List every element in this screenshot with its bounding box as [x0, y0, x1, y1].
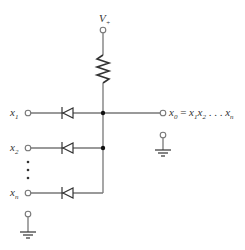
xn-terminal — [25, 190, 31, 196]
output-ground-icon — [155, 150, 171, 156]
x1-terminal — [25, 110, 31, 116]
diode-x1 — [62, 107, 73, 119]
x1-label: x1 — [9, 106, 18, 121]
ellipsis-dots — [27, 161, 30, 180]
x2-label: x2 — [9, 141, 19, 156]
output-expression: x0 = x1x2 . . . xn — [168, 106, 234, 121]
junction-node-1 — [101, 111, 105, 115]
input-ground-terminal — [25, 211, 31, 217]
diode-and-gate-diagram: V+ x1 x2 xn x0 = x1x2 . . . xn — [0, 0, 245, 250]
input-ground-icon — [20, 232, 36, 238]
x2-terminal — [25, 145, 31, 151]
diode-x2 — [62, 142, 73, 154]
xn-label: xn — [9, 186, 19, 201]
output-terminal — [160, 110, 166, 116]
resistor — [97, 55, 109, 83]
supply-terminal — [100, 27, 106, 33]
junction-node-2 — [101, 146, 105, 150]
diode-xn — [62, 187, 73, 199]
output-ground-terminal — [160, 132, 166, 138]
supply-label: V+ — [99, 12, 111, 27]
